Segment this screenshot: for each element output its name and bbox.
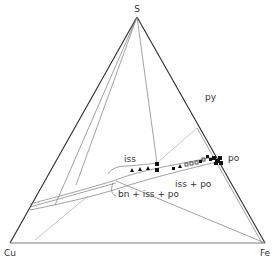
- edge-s-fe: [137, 17, 265, 243]
- phase-label-po: po: [228, 153, 240, 163]
- vertex-label-s: S: [134, 4, 140, 14]
- edge-s-cu: [10, 17, 137, 243]
- phase-label-py: py: [205, 92, 217, 102]
- phase-label-bn-iss-po: bn + iss + po: [118, 189, 180, 199]
- tie-line-py: [157, 128, 197, 163]
- phase-label-iss: iss: [124, 154, 136, 164]
- tie-line-s-3: [137, 17, 157, 163]
- iss-field-top: [108, 163, 157, 174]
- square-markers: [155, 155, 223, 172]
- tie-line-cu-side: [35, 196, 88, 240]
- phase-label-iss-po: iss + po: [175, 179, 212, 189]
- vertex-label-cu: Cu: [4, 248, 16, 258]
- vertex-label-fe: Fe: [260, 248, 271, 258]
- tie-line-bn: [30, 183, 116, 207]
- ternary-diagram: S Cu Fe py po iss iss + po bn + iss + po: [0, 0, 277, 260]
